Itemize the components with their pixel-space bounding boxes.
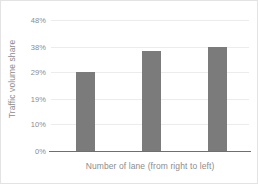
y-axis-tick-label: 38% (31, 43, 46, 52)
x-axis-title: Number of lane (from right to left) (47, 161, 253, 171)
y-axis-tick-label: 29% (31, 67, 46, 76)
y-axis-tick-label: 0% (35, 147, 46, 156)
y-axis-tick-label: 10% (31, 119, 46, 128)
x-axis-line (49, 151, 251, 152)
bar[interactable] (142, 51, 161, 151)
gridline (51, 20, 249, 21)
y-axis-title-text: Traffic volume share (7, 39, 17, 118)
y-axis-tick-label: 48% (31, 16, 46, 25)
y-axis-tick-label: 19% (31, 95, 46, 104)
plot-area (51, 20, 249, 151)
bar[interactable] (76, 72, 95, 151)
y-axis-tick-labels: 0%10%19%29%38%48% (19, 1, 49, 184)
bar[interactable] (208, 47, 227, 151)
bar-chart: Traffic volume share 0%10%19%29%38%48% N… (0, 0, 258, 184)
